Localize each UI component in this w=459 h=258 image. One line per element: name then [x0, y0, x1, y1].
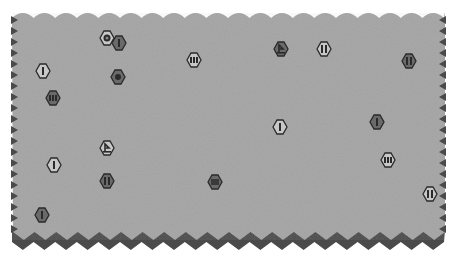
block-icon [205, 173, 225, 191]
bar-3-icon [378, 151, 398, 169]
bar-2-icon [314, 40, 334, 58]
game-board[interactable] [0, 0, 459, 258]
unit-counter-light-bar-2[interactable] [420, 185, 440, 203]
bar-1-icon [270, 118, 290, 136]
unit-counter-light-bar-3[interactable] [184, 51, 204, 69]
flag-icon [97, 139, 117, 157]
unit-counter-light-bar-3[interactable] [378, 151, 398, 169]
unit-counter-dark-bar-3[interactable] [43, 89, 63, 107]
bar-1-icon [33, 62, 53, 80]
unit-counter-light-bar-1[interactable] [270, 118, 290, 136]
unit-counter-dark-flag[interactable] [271, 40, 291, 58]
bar-2-icon [97, 172, 117, 190]
unit-counter-dark-dot[interactable] [108, 68, 128, 86]
bar-3-icon [43, 89, 63, 107]
dot-icon [108, 68, 128, 86]
unit-counter-dark-bar-2[interactable] [97, 172, 117, 190]
unit-counter-light-bar-1[interactable] [33, 62, 53, 80]
unit-counter-dark-bar-1[interactable] [32, 206, 52, 224]
unit-counter-light-bar-1[interactable] [44, 156, 64, 174]
bar-2-icon [399, 52, 419, 70]
unit-counter-light-flag[interactable] [97, 139, 117, 157]
bar-3-icon [184, 51, 204, 69]
board-bottom-edge [12, 230, 445, 250]
unit-counter-dark-block[interactable] [205, 173, 225, 191]
flag-icon [271, 40, 291, 58]
bar-1-icon [367, 113, 387, 131]
bar-1-icon [44, 156, 64, 174]
unit-counter-dark-bar-2[interactable] [399, 52, 419, 70]
unit-counter-dark-bar-1[interactable] [367, 113, 387, 131]
bar-1-icon [32, 206, 52, 224]
unit-counter-light-bar-2[interactable] [314, 40, 334, 58]
unit-counter-dark-bar-1[interactable] [109, 34, 129, 52]
bar-1-icon [109, 34, 129, 52]
bar-2-icon [420, 185, 440, 203]
